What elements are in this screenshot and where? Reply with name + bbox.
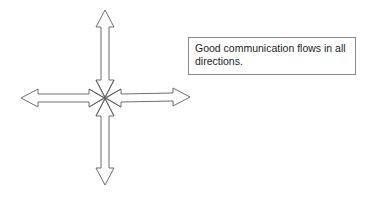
communication-arrows-diagram: [0, 0, 376, 197]
arrow-left-icon: [21, 89, 104, 107]
note-text: Good communication flows in all directio…: [195, 42, 346, 67]
arrow-down-icon: [96, 99, 114, 185]
arrow-up-icon: [96, 10, 114, 97]
arrow-right-icon: [106, 88, 190, 107]
note-text-box: Good communication flows in all directio…: [188, 37, 356, 75]
